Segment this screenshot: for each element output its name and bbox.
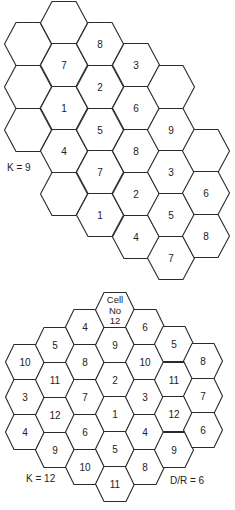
cell-number-label: 3 <box>133 60 139 71</box>
cell-number-label: 10 <box>139 357 151 368</box>
cell-number-label: 5 <box>97 125 103 136</box>
k9-cluster-pattern: 7148257136824935768 <box>5 2 230 280</box>
cell-number-label: 3 <box>142 392 148 403</box>
cell-number-label: 8 <box>97 39 103 50</box>
cell-number-label: 11 <box>169 375 180 386</box>
cell-number-label: 1 <box>112 409 118 420</box>
cell-number-label: 7 <box>61 60 67 71</box>
cell-number-label: 7 <box>200 391 206 402</box>
hex-cell-diagram: 7148257136824935768 K = 9 10345111294876… <box>0 0 235 510</box>
cell-number-label: 5 <box>112 444 118 455</box>
cell-number-label: 12 <box>110 315 121 326</box>
cell-number-label: Cell <box>107 294 123 305</box>
cell-number-label: 5 <box>52 340 58 351</box>
cell-number-label: 8 <box>200 356 206 367</box>
d-over-r-caption: D/R = 6 <box>170 475 205 486</box>
k9-caption: K = 9 <box>7 162 31 173</box>
cell-number-label: 2 <box>133 189 139 200</box>
hex-cell: 7 <box>184 379 223 414</box>
cell-number-label: 1 <box>97 210 103 221</box>
cell-number-label: 9 <box>171 445 177 456</box>
cellular-reuse-figure: 7148257136824935768 K = 9 10345111294876… <box>0 0 235 510</box>
k12-caption: K = 12 <box>26 473 56 484</box>
cell-number-label: 8 <box>142 462 148 473</box>
cell-number-label: 6 <box>133 103 139 114</box>
cell-number-label: 7 <box>97 167 103 178</box>
hex-cell: 6 <box>184 413 223 448</box>
cell-number-label: 9 <box>52 445 58 456</box>
cell-number-label: 9 <box>168 125 174 136</box>
cell-number-label: 11 <box>50 375 61 386</box>
cell-number-label: 7 <box>168 253 174 264</box>
cell-number-label: 4 <box>133 232 139 243</box>
k12-cluster-pattern: 1034511129487610CellNo129215116103485111… <box>6 293 223 502</box>
cell-number-label: 4 <box>142 427 148 438</box>
cell-number-label: 10 <box>19 357 31 368</box>
cell-number-label: 6 <box>200 425 206 436</box>
cell-number-label: 2 <box>97 82 103 93</box>
cell-number-label: 11 <box>110 479 121 490</box>
cell-number-label: 6 <box>142 322 148 333</box>
cell-number-label: 4 <box>61 146 67 157</box>
cell-number-label: No <box>109 305 121 316</box>
cell-number-label: 9 <box>112 340 118 351</box>
cell-number-label: 1 <box>61 103 67 114</box>
cell-number-label: 4 <box>82 322 88 333</box>
cell-number-label: 4 <box>22 427 28 438</box>
cell-number-label: 5 <box>171 339 177 350</box>
cell-number-label: 3 <box>168 167 174 178</box>
cell-number-label: 3 <box>22 392 28 403</box>
cell-number-label: 8 <box>82 357 88 368</box>
cell-number-label: 8 <box>133 146 139 157</box>
cell-number-label: 5 <box>168 210 174 221</box>
cell-number-label: 6 <box>203 188 209 199</box>
cell-number-label: 10 <box>79 462 91 473</box>
cell-number-label: 2 <box>112 375 118 386</box>
hex-cell: 8 <box>184 344 223 379</box>
cell-number-label: 12 <box>168 409 180 420</box>
cell-number-label: 6 <box>82 427 88 438</box>
cell-number-label: 7 <box>82 392 88 403</box>
cell-number-label: 8 <box>203 231 209 242</box>
cell-number-label: 12 <box>49 410 61 421</box>
